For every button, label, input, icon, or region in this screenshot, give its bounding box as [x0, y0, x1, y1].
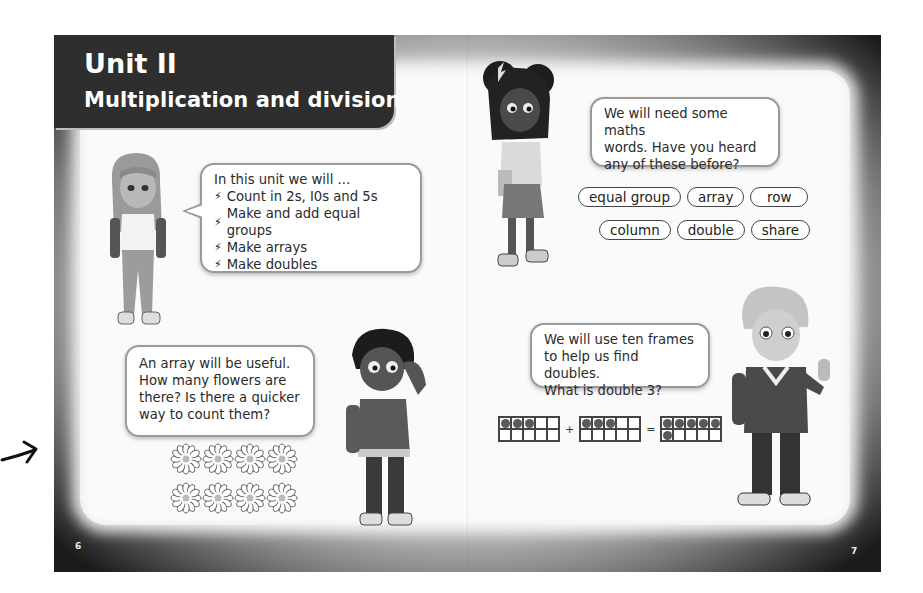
empty-cell — [580, 429, 592, 441]
empty-cell — [685, 429, 697, 441]
bullet-text: Make and add equal groups — [227, 205, 408, 239]
flower-icon — [234, 482, 266, 514]
bullet-text: Count in 2s, I0s and 5s — [227, 188, 378, 205]
bubble-line: We will need some maths — [604, 105, 766, 139]
vocab-chip-row: row — [750, 187, 808, 207]
bubble-line: any of these before? — [604, 156, 766, 173]
empty-cell — [628, 429, 640, 441]
bubble-line: there? Is there a quicker — [139, 389, 301, 406]
empty-cell — [499, 429, 511, 441]
counter-dot — [697, 417, 709, 429]
counter-dot — [592, 417, 604, 429]
flower-icon — [170, 482, 202, 514]
bubble-tail-fill — [186, 205, 203, 217]
speech-bubble-vocabulary: We will need some maths words. Have you … — [590, 97, 780, 167]
speech-bubble-intro: In this unit we will ... ⚡Count in 2s, I… — [200, 163, 422, 273]
flower-icon — [202, 482, 234, 514]
vocab-chip-double: double — [677, 220, 745, 240]
lightning-bolt-icon: ⚡ — [214, 214, 222, 231]
counter-dot — [673, 417, 685, 429]
flower-icon — [234, 443, 266, 475]
character-girl-long-hair — [100, 150, 175, 332]
flower-icon — [170, 443, 202, 475]
ten-frame-result — [660, 416, 722, 442]
bubble-line: An array will be useful. — [139, 355, 301, 372]
counter-dot — [661, 417, 673, 429]
lightning-bolt-icon: ⚡ — [214, 239, 222, 256]
counter-dot — [523, 417, 535, 429]
empty-cell — [697, 429, 709, 441]
hand-drawn-arrow-icon — [0, 430, 42, 470]
vocab-chip-share: share — [751, 220, 810, 240]
flower-icon — [202, 443, 234, 475]
empty-cell — [523, 429, 535, 441]
empty-cell — [535, 429, 547, 441]
flower-icon — [266, 443, 298, 475]
empty-cell — [535, 417, 547, 429]
bullet-text: Make doubles — [227, 256, 318, 273]
empty-cell — [616, 417, 628, 429]
ten-frame-first — [498, 416, 560, 442]
empty-cell — [604, 429, 616, 441]
flower-array — [170, 443, 298, 514]
empty-cell — [709, 429, 721, 441]
counter-dot — [685, 417, 697, 429]
vocabulary-row-1: equal group array row — [578, 187, 808, 207]
empty-cell — [547, 429, 559, 441]
bullet-item: ⚡Make doubles — [214, 256, 408, 273]
bubble-line: We will use ten frames — [544, 331, 696, 348]
counter-dot — [661, 429, 673, 441]
equals-sign: = — [646, 423, 655, 436]
empty-cell — [547, 417, 559, 429]
speech-bubble-array: An array will be useful. How many flower… — [125, 345, 315, 437]
bullet-text: Make arrays — [227, 239, 307, 256]
bubble-line: way to count them? — [139, 406, 301, 423]
lightning-bolt-icon: ⚡ — [214, 256, 222, 273]
unit-title: Multiplication and division — [84, 88, 401, 112]
bubble-line: words. Have you heard — [604, 139, 766, 156]
empty-cell — [592, 429, 604, 441]
bubble-line: What is double 3? — [544, 382, 696, 399]
vocabulary-row-2: column double share — [599, 220, 810, 240]
counter-dot — [709, 417, 721, 429]
ten-frame-second — [579, 416, 641, 442]
speech-bubble-doubles: We will use ten frames to help us find d… — [530, 323, 710, 388]
counter-dot — [580, 417, 592, 429]
intro-heading: In this unit we will ... — [214, 171, 408, 188]
empty-cell — [628, 417, 640, 429]
page-number-left: 6 — [75, 541, 81, 551]
plus-sign: + — [565, 423, 574, 436]
vocab-chip-column: column — [599, 220, 671, 240]
ten-frame-equation: + = — [498, 416, 722, 442]
character-girl-hair-buns — [478, 58, 563, 276]
page-number-right: 7 — [851, 546, 857, 556]
lightning-bolt-icon: ⚡ — [214, 188, 222, 205]
character-boy-thumbs-up — [728, 283, 836, 515]
empty-cell — [616, 429, 628, 441]
character-boy-dark-hair — [340, 325, 435, 535]
counter-dot — [604, 417, 616, 429]
counter-dot — [511, 417, 523, 429]
bullet-item: ⚡Make and add equal groups — [214, 205, 408, 239]
flower-icon — [266, 482, 298, 514]
empty-cell — [673, 429, 685, 441]
bubble-line: How many flowers are — [139, 372, 301, 389]
empty-cell — [511, 429, 523, 441]
page-gutter — [467, 35, 468, 572]
bullet-item: ⚡Make arrays — [214, 239, 408, 256]
vocab-chip-equal-group: equal group — [578, 187, 681, 207]
vocab-chip-array: array — [687, 187, 744, 207]
unit-number: Unit II — [84, 48, 177, 79]
bullet-item: ⚡Count in 2s, I0s and 5s — [214, 188, 408, 205]
bubble-line: to help us find doubles. — [544, 348, 696, 382]
counter-dot — [499, 417, 511, 429]
